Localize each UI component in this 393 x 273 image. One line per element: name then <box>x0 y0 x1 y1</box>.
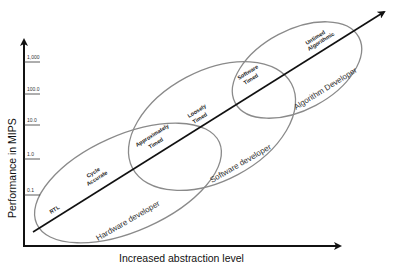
x-axis-label: Increased abstraction level <box>119 252 244 264</box>
stage-rtl: RTL <box>48 204 61 215</box>
tick-label: 0.1 <box>27 187 34 193</box>
y-ticks: 1,000 100.0 10.0 1.0 0.1 <box>24 54 40 195</box>
role-algorithm-developer: Algorithm Developer <box>292 65 359 111</box>
abstraction-diagram: 1,000 100.0 10.0 1.0 0.1 RTL Cycle Accur… <box>0 0 393 273</box>
role-hardware-developer: Hardware developer <box>95 199 162 243</box>
tick-label: 1,000 <box>27 54 40 60</box>
role-software-developer: Software developer <box>209 142 273 184</box>
abstraction-trend-arrow <box>33 12 384 232</box>
software-developer-ellipse <box>107 35 318 217</box>
tick-label: 10.0 <box>27 117 37 123</box>
tick-label: 1.0 <box>27 151 34 157</box>
y-axis-label: Performance in MIPS <box>6 118 18 218</box>
tick-label: 100.0 <box>27 86 40 92</box>
